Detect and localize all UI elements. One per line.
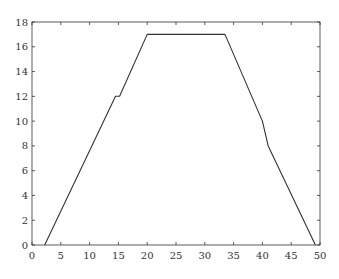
x-tick-label: 30 [198, 250, 211, 261]
x-axis: 05101520253035404550 [29, 22, 327, 261]
x-tick-label: 20 [141, 250, 154, 261]
plot-frame [32, 22, 320, 245]
x-tick-label: 5 [58, 250, 64, 261]
line-chart: 05101520253035404550 024681012141618 [0, 0, 339, 279]
x-tick-label: 10 [83, 250, 96, 261]
plot-border [32, 22, 320, 245]
x-tick-label: 45 [285, 250, 298, 261]
x-tick-label: 15 [112, 250, 125, 261]
x-tick-label: 25 [170, 250, 183, 261]
y-axis: 024681012141618 [15, 17, 320, 251]
x-tick-label: 40 [256, 250, 269, 261]
x-tick-label: 35 [227, 250, 240, 261]
y-tick-label: 18 [15, 17, 28, 28]
x-tick-label: 50 [314, 250, 327, 261]
y-tick-label: 6 [22, 165, 28, 176]
y-tick-label: 0 [22, 240, 28, 251]
y-tick-label: 10 [15, 116, 28, 127]
y-tick-label: 16 [15, 41, 28, 52]
x-tick-label: 0 [29, 250, 35, 261]
y-tick-label: 2 [22, 215, 28, 226]
y-tick-label: 12 [15, 91, 28, 102]
y-tick-label: 4 [22, 190, 28, 201]
data-series [45, 34, 316, 245]
y-tick-label: 14 [15, 66, 28, 77]
series-line [45, 34, 316, 245]
y-tick-label: 8 [22, 140, 28, 151]
